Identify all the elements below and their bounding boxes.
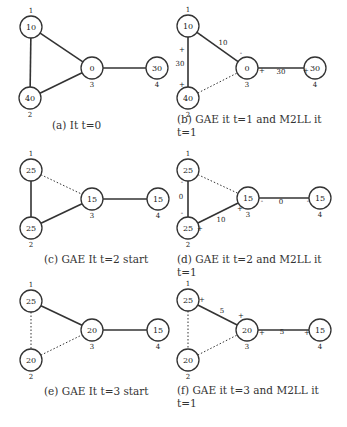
node-id-label: 3	[246, 211, 250, 219]
node-value: 15	[153, 326, 163, 335]
edge-2-3	[198, 335, 237, 355]
caption-a: (a) It t=0	[52, 119, 172, 132]
node-id-label: 1	[29, 281, 33, 289]
caption-d: (d) GAE it t=2 and M2LL it t=1	[177, 253, 337, 279]
node-value: 25	[26, 224, 36, 233]
edge-1-3	[41, 175, 82, 195]
edge-annotation: -	[181, 209, 184, 217]
node-value: 25	[183, 296, 193, 305]
edge-annotation: +	[259, 67, 265, 75]
caption-e: (e) GAE It t=3 start	[44, 385, 174, 398]
edge-annotation: +	[179, 46, 185, 54]
node-id-label: 4	[318, 211, 323, 219]
graph-panel-c: 251252153154	[20, 150, 169, 249]
node-id-label: 1	[29, 7, 33, 15]
edge-annotation: +	[304, 329, 310, 337]
caption-b: (b) GAE it t=1 and M2LL it t=1	[177, 113, 337, 139]
node-value: 20	[87, 326, 97, 335]
node-value: 25	[183, 166, 193, 175]
node-value: 15	[315, 326, 325, 335]
edge-annotation: 0	[279, 198, 283, 206]
node-value: 30	[152, 64, 162, 73]
node-id-label: 2	[29, 241, 33, 249]
node-id-label: 1	[186, 6, 190, 14]
node-id-label: 4	[156, 212, 161, 220]
node-id-label: 2	[28, 111, 32, 119]
node-value: 15	[87, 195, 97, 204]
edge-annotation: 5	[280, 328, 284, 336]
edge-annotation: 10	[219, 39, 228, 47]
node-id-label: 2	[186, 373, 190, 381]
node-id-label: 4	[313, 81, 318, 89]
edge-annotation: 10	[217, 216, 226, 224]
node-value: 40	[183, 94, 193, 103]
graph-figure: 1014020330410140203304103030-+-+++251252…	[0, 0, 347, 427]
node-id-label: 3	[245, 343, 249, 351]
edge-1-3	[198, 305, 237, 325]
node-id-label: 2	[29, 373, 33, 381]
node-value: 25	[183, 224, 193, 233]
node-value: 0	[89, 64, 94, 73]
edge-annotation: -	[200, 31, 203, 39]
node-value: 10	[183, 22, 193, 31]
edge-annotation: 5	[220, 307, 224, 315]
edge-annotation: +	[179, 81, 185, 89]
edge-annotation: 0	[179, 193, 183, 201]
edge-1-3	[40, 33, 83, 62]
edge-2-3	[40, 73, 82, 93]
edge-2-3	[41, 335, 82, 355]
edge-2-3	[41, 204, 82, 224]
node-value: 15	[153, 195, 163, 204]
edge-annotation: -	[240, 49, 243, 57]
node-value: 20	[26, 356, 36, 365]
node-value: 15	[315, 194, 325, 203]
edge-annotation: +	[238, 312, 244, 320]
caption-f: (f) GAE it t=3 and M2LL it t=1	[177, 384, 337, 410]
graph-panel-b: 10140203304103030-+-+++	[176, 6, 326, 119]
node-id-label: 4	[156, 343, 161, 351]
edge-1-3	[41, 306, 82, 326]
node-id-label: 1	[29, 150, 33, 158]
edge-annotation: +	[303, 67, 309, 75]
node-id-label: 3	[245, 81, 249, 89]
edge-1-2	[30, 38, 31, 87]
node-value: 10	[26, 23, 36, 32]
node-value: 20	[183, 356, 193, 365]
node-value: 20	[242, 326, 252, 335]
node-id-label: 3	[90, 212, 94, 220]
edge-1-3	[198, 175, 238, 194]
node-id-label: 4	[155, 81, 160, 89]
node-id-label: 1	[186, 150, 190, 158]
node-value: 15	[243, 194, 253, 203]
node-value: 25	[26, 166, 36, 175]
graph-panel-a: 10140203304	[19, 7, 168, 119]
edge-annotation: +	[259, 329, 265, 337]
node-id-label: 4	[318, 343, 323, 351]
edge-annotation: +	[199, 296, 205, 304]
node-value: 40	[25, 94, 35, 103]
node-id-label: 3	[90, 343, 94, 351]
graph-panel-f: 251202203154+5++5+	[177, 280, 331, 381]
caption-c: (c) GAE It t=2 start	[44, 253, 174, 266]
edge-annotation: +	[197, 225, 203, 233]
edge-1-3	[197, 32, 238, 61]
node-value: 25	[26, 297, 36, 306]
node-value: 30	[310, 64, 320, 73]
graph-panel-e: 251202203154	[20, 281, 169, 381]
edge-annotation: 30	[277, 68, 286, 76]
node-value: 0	[244, 64, 249, 73]
edge-annotation: 30	[176, 60, 185, 68]
edge-2-3	[198, 73, 237, 93]
edge-annotation: +	[237, 205, 243, 213]
node-id-label: 3	[90, 81, 94, 89]
node-id-label: 2	[186, 241, 190, 249]
graph-panel-d: 2512521531540100--++--	[177, 150, 331, 249]
node-id-label: 1	[186, 280, 190, 288]
